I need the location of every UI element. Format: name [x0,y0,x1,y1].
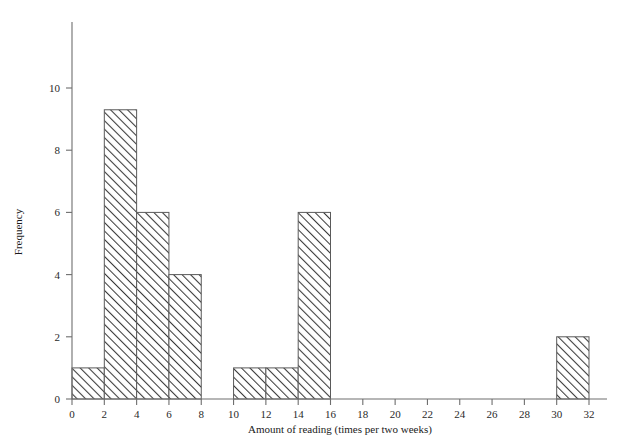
histogram-bar [137,212,169,399]
histogram-bar [266,368,298,399]
x-tick-label: 32 [584,408,595,420]
x-tick-label: 12 [260,408,271,420]
histogram-bar [234,368,266,399]
x-axis-title: Amount of reading (times per two weeks) [248,423,432,436]
y-tick-label: 6 [55,206,61,218]
x-tick-label: 26 [487,408,499,420]
x-tick-label: 24 [454,408,466,420]
x-tick-label: 16 [325,408,337,420]
y-tick-label: 0 [55,393,61,405]
y-tick-label: 10 [49,82,61,94]
x-tick-label: 30 [551,408,563,420]
histogram-bar [72,368,104,399]
y-tick-label: 8 [55,144,61,156]
chart-canvas: 02468101214161820222426283032 0246810 Am… [0,0,618,443]
y-tick-label: 4 [55,269,61,281]
x-tick-label: 10 [228,408,240,420]
histogram-chart: 02468101214161820222426283032 0246810 Am… [0,0,618,443]
x-tick-label: 14 [293,408,305,420]
x-tick-label: 18 [357,408,369,420]
x-tick-label: 2 [102,408,108,420]
histogram-bar [104,110,136,399]
histogram-bar [169,275,201,399]
y-tick-label: 2 [55,331,61,343]
x-tick-label: 4 [134,408,140,420]
x-tick-label: 8 [199,408,205,420]
histogram-bar [298,212,330,399]
x-tick-label: 28 [519,408,531,420]
x-tick-label: 0 [69,408,75,420]
histogram-bar [557,337,589,399]
x-tick-label: 6 [166,408,172,420]
x-tick-label: 22 [422,408,433,420]
x-tick-label: 20 [390,408,402,420]
y-axis-title: Frequency [12,208,24,255]
